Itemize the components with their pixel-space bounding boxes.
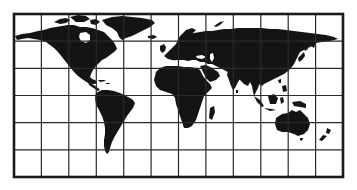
world-map-svg: [0, 0, 357, 190]
sri-lanka: [236, 90, 238, 93]
world-map: [0, 0, 357, 190]
